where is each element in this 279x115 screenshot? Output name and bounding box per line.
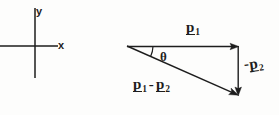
vector-diagram-figure: y x p1 -p2 p1-p2 θ <box>0 0 279 115</box>
vector-label-p1: p1 <box>186 20 200 35</box>
vector-label-p1-minus-p2: p1-p2 <box>133 77 170 92</box>
coordinate-axes <box>0 8 58 78</box>
p1-subscript-diff: 1 <box>142 84 147 94</box>
vector-label-negative-p2: -p2 <box>243 55 264 73</box>
theta-angle-arc <box>151 46 153 56</box>
minus-operator: - <box>147 76 156 92</box>
y-axis-label: y <box>36 6 42 17</box>
p1-letter-diff: p <box>133 77 142 92</box>
x-axis-label: x <box>58 40 64 51</box>
p1-subscript: 1 <box>195 27 200 37</box>
p2-letter-diff: p <box>156 77 165 92</box>
diagram-canvas <box>0 0 279 115</box>
p2-subscript-diff: 2 <box>165 84 170 94</box>
p1-letter: p <box>186 20 195 35</box>
vector-negative-p2-arrow <box>235 46 242 96</box>
vector-p1-arrow <box>127 43 239 50</box>
p2-subscript: 2 <box>258 62 264 73</box>
theta-angle-label: θ <box>160 50 167 63</box>
